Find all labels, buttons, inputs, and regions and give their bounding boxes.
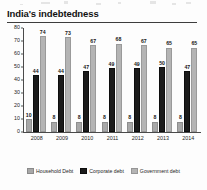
- legend-label: Government debt: [140, 168, 180, 174]
- bar-household: [26, 119, 32, 132]
- bar-group: 84968: [101, 28, 125, 132]
- y-tick-label: 50: [14, 64, 20, 69]
- bar-government: [65, 37, 71, 132]
- y-axis: 01020304050607080: [6, 28, 21, 132]
- bar-value-label: 67: [87, 39, 99, 44]
- bar-group: 104474: [25, 28, 49, 132]
- title-divider: [7, 22, 197, 23]
- bar-group: 85065: [151, 28, 175, 132]
- bar-value-label: 68: [113, 37, 125, 42]
- noise-speck: [20, 4, 23, 5]
- bar-value-label: 74: [37, 30, 49, 35]
- x-axis: 2008200920102011201220132014: [24, 135, 201, 145]
- chart-title: India's indebtedness: [7, 8, 200, 19]
- bar-corporate: [184, 71, 190, 132]
- y-tick-label: 30: [14, 90, 20, 95]
- legend-swatch-icon: [27, 168, 34, 174]
- y-tick-label: 80: [14, 25, 20, 30]
- y-tick-label: 20: [14, 103, 20, 108]
- bar-government: [141, 45, 147, 132]
- bar-government: [90, 45, 96, 132]
- x-tick-label: 2010: [75, 135, 99, 141]
- bar-government: [166, 48, 172, 133]
- legend-swatch-icon: [80, 168, 87, 174]
- y-tick-label: 70: [14, 38, 20, 43]
- bar-household: [76, 122, 82, 132]
- x-tick-label: 2012: [126, 135, 150, 141]
- legend-item-household[interactable]: Household Debt: [27, 168, 73, 174]
- legend-label: Corporate debt: [89, 168, 124, 174]
- y-tick-label: 40: [14, 77, 20, 82]
- noise-speck: [172, 3, 176, 5]
- y-tick-label: 10: [14, 116, 20, 121]
- bar-group: 84473: [50, 28, 74, 132]
- y-tick-label: 60: [14, 51, 20, 56]
- bar-household: [177, 122, 183, 132]
- noise-speck: [118, 2, 121, 4]
- bar-group: 84765: [176, 28, 200, 132]
- noise-speck: [186, 2, 191, 4]
- bar-group: 84767: [75, 28, 99, 132]
- x-tick-label: 2014: [176, 135, 200, 141]
- bar-household: [127, 122, 133, 132]
- x-tick-label: 2008: [25, 135, 49, 141]
- bar-household: [102, 122, 108, 132]
- legend-item-corporate[interactable]: Corporate debt: [80, 168, 124, 174]
- noise-speck: [96, 3, 101, 5]
- bar-government: [116, 44, 122, 132]
- bar-corporate: [33, 75, 39, 132]
- bar-government: [191, 48, 197, 133]
- chart-legend: Household DebtCorporate debtGovernment d…: [0, 168, 207, 174]
- bar-household: [51, 122, 57, 132]
- noise-speck: [150, 1, 156, 4]
- bar-corporate: [58, 75, 64, 132]
- y-tick-label: 0: [17, 129, 20, 134]
- bar-corporate: [134, 68, 140, 132]
- bar-group: 84967: [126, 28, 150, 132]
- bars-container: 104474844738476784968849678506584765: [24, 28, 201, 132]
- plot-area: 01020304050607080 1044748447384767849688…: [6, 28, 202, 140]
- bar-value-label: 65: [188, 41, 200, 46]
- x-tick-label: 2009: [50, 135, 74, 141]
- x-axis-line: [23, 132, 201, 133]
- bar-value-label: 65: [163, 41, 175, 46]
- noise-speck: [41, 2, 50, 4]
- bar-government: [40, 36, 46, 132]
- bar-corporate: [83, 71, 89, 132]
- legend-label: Household Debt: [36, 168, 73, 174]
- bar-corporate: [159, 67, 165, 132]
- title-block: India's indebtedness: [7, 8, 200, 23]
- legend-swatch-icon: [131, 168, 138, 174]
- x-tick-label: 2013: [151, 135, 175, 141]
- bar-value-label: 73: [62, 31, 74, 36]
- bar-household: [152, 122, 158, 132]
- noise-speck: [64, 1, 68, 4]
- x-tick-label: 2011: [101, 135, 125, 141]
- legend-item-government[interactable]: Government debt: [131, 168, 180, 174]
- chart-page: India's indebtedness 01020304050607080 1…: [0, 0, 207, 190]
- bar-value-label: 67: [138, 39, 150, 44]
- bar-corporate: [109, 68, 115, 132]
